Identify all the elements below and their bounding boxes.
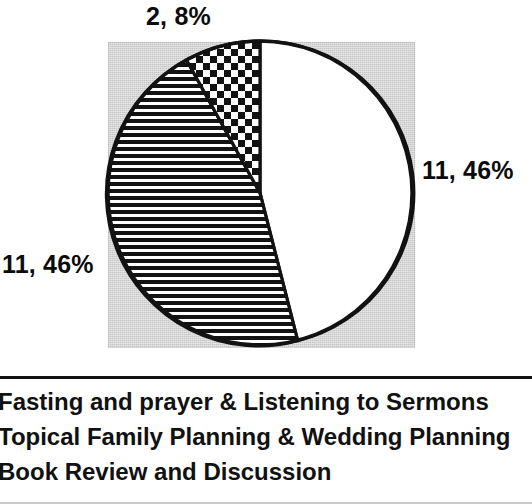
data-label-topical-family-planning: 11, 46% bbox=[2, 252, 94, 277]
legend-item-list: Fasting and prayer & Listening to Sermon… bbox=[0, 384, 532, 489]
legend: Fasting and prayer & Listening to Sermon… bbox=[0, 372, 532, 504]
legend-item-topical-family-planning: Topical Family Planning & Wedding Planni… bbox=[0, 419, 532, 454]
legend-top-rule bbox=[0, 376, 532, 379]
data-label-fasting-and-prayer: 11, 46% bbox=[422, 158, 514, 183]
chart-area: 2, 8% 11, 46% 11, 46% bbox=[0, 0, 532, 372]
pie-graphic bbox=[0, 0, 532, 372]
legend-item-fasting-and-prayer: Fasting and prayer & Listening to Sermon… bbox=[0, 384, 532, 419]
data-label-book-review: 2, 8% bbox=[146, 4, 211, 29]
pie-chart-figure: 2, 8% 11, 46% 11, 46% Fasting and prayer… bbox=[0, 0, 532, 504]
legend-item-book-review: Book Review and Discussion bbox=[0, 454, 532, 489]
